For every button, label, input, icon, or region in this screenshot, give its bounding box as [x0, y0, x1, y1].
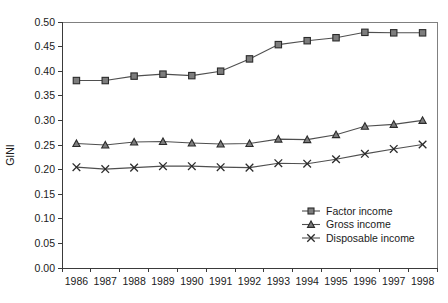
- series-line: [76, 145, 422, 170]
- marker-square: [160, 71, 166, 77]
- marker-square: [333, 35, 339, 41]
- x-tick-label: 1998: [411, 275, 435, 287]
- x-tick-label: 1996: [353, 275, 377, 287]
- x-tick-label: 1993: [267, 275, 291, 287]
- legend-label: Disposable income: [326, 232, 415, 244]
- series-layer: [73, 29, 427, 173]
- y-axis-label: GINI: [4, 144, 16, 166]
- y-tick-label: 0.40: [35, 65, 56, 77]
- y-tick-label: 0.30: [35, 114, 56, 126]
- marker-square: [217, 68, 223, 74]
- marker-triangle: [419, 117, 426, 124]
- x-tick-label: 1991: [209, 275, 233, 287]
- marker-square: [275, 41, 281, 47]
- legend-label: Gross income: [326, 218, 391, 230]
- marker-square: [246, 56, 252, 62]
- y-tick-label: 0.00: [35, 262, 56, 274]
- marker-square: [131, 73, 137, 79]
- x-tick-label: 1988: [122, 275, 146, 287]
- y-tick-label: 0.45: [35, 40, 56, 52]
- marker-square: [308, 208, 314, 214]
- marker-square: [391, 30, 397, 36]
- legend-label: Factor income: [326, 205, 393, 217]
- gini-line-chart: 0.000.050.100.150.200.250.300.350.400.45…: [0, 0, 448, 303]
- y-tick-label: 0.15: [35, 188, 56, 200]
- x-tick-label: 1992: [238, 275, 262, 287]
- x-axis-ticks: 1986198719881989199019911992199319941995…: [62, 268, 437, 287]
- y-tick-label: 0.10: [35, 212, 56, 224]
- x-tick-label: 1990: [180, 275, 204, 287]
- chart-legend: Factor incomeGross incomeDisposable inco…: [302, 205, 415, 244]
- marker-square: [102, 77, 108, 83]
- marker-square: [419, 30, 425, 36]
- x-tick-label: 1994: [296, 275, 320, 287]
- y-tick-label: 0.50: [35, 16, 56, 28]
- x-tick-label: 1986: [65, 275, 89, 287]
- marker-square: [73, 77, 79, 83]
- chart-canvas: 0.000.050.100.150.200.250.300.350.400.45…: [0, 0, 448, 303]
- marker-square: [189, 72, 195, 78]
- x-tick-label: 1995: [324, 275, 348, 287]
- y-tick-label: 0.25: [35, 139, 56, 151]
- legend-item: Factor income: [302, 205, 393, 217]
- legend-item: Gross income: [302, 218, 391, 230]
- marker-square: [362, 29, 368, 35]
- y-tick-label: 0.20: [35, 163, 56, 175]
- marker-square: [304, 37, 310, 43]
- y-axis-ticks: 0.000.050.100.150.200.250.300.350.400.45…: [35, 16, 62, 274]
- x-tick-label: 1987: [94, 275, 118, 287]
- y-tick-label: 0.05: [35, 237, 56, 249]
- data-series: [73, 117, 426, 148]
- y-tick-label: 0.35: [35, 89, 56, 101]
- x-tick-label: 1989: [151, 275, 175, 287]
- legend-item: Disposable income: [302, 232, 415, 244]
- x-tick-label: 1997: [382, 275, 406, 287]
- data-series: [73, 29, 426, 84]
